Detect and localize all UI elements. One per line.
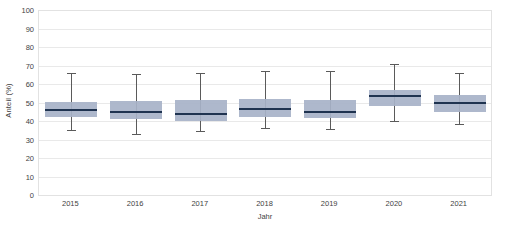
whisker-cap-lower <box>455 124 464 125</box>
y-tick-label: 70 <box>26 61 34 70</box>
whisker-cap-upper <box>67 73 76 74</box>
median-line <box>45 109 97 111</box>
y-tick-label: 90 <box>26 24 34 33</box>
median-line <box>110 111 162 113</box>
median-line <box>304 111 356 113</box>
median-line <box>239 108 291 110</box>
box-plot-item[interactable] <box>298 10 363 195</box>
box-plot-chart: Anteil (%) 0102030405060708090100 201520… <box>0 0 508 236</box>
x-axis-title: Jahr <box>38 212 492 221</box>
whisker-cap-upper <box>261 71 270 72</box>
y-tick-label: 50 <box>26 98 34 107</box>
box-plot-item[interactable] <box>39 10 104 195</box>
whisker-cap-upper <box>390 64 399 65</box>
y-tick-label: 100 <box>21 6 34 15</box>
whisker-cap-lower <box>67 130 76 131</box>
whisker-cap-upper <box>326 71 335 72</box>
box-plot-item[interactable] <box>233 10 298 195</box>
box-rect <box>369 90 421 107</box>
median-line <box>434 102 486 104</box>
x-tick-label: 2021 <box>450 199 467 208</box>
x-tick-label: 2017 <box>191 199 208 208</box>
whisker-cap-lower <box>326 129 335 130</box>
gridline <box>39 195 492 196</box>
box-plot-item[interactable] <box>427 10 492 195</box>
box-rect <box>304 100 356 119</box>
y-axis-title-text: Anteil (%) <box>4 83 13 118</box>
whisker-cap-lower <box>132 134 141 135</box>
whisker-cap-lower <box>196 131 205 132</box>
whisker-cap-lower <box>390 121 399 122</box>
x-tick-label: 2015 <box>62 199 79 208</box>
y-tick-label: 20 <box>26 154 34 163</box>
median-line <box>369 95 421 97</box>
y-tick-label: 10 <box>26 172 34 181</box>
y-tick-label: 0 <box>30 191 34 200</box>
whisker-cap-lower <box>261 128 270 129</box>
y-axis-tick-labels: 0102030405060708090100 <box>14 5 36 197</box>
y-tick-label: 60 <box>26 80 34 89</box>
x-axis-tick-labels: 2015201620172018201920202021 <box>38 199 492 213</box>
whisker-cap-upper <box>132 74 141 75</box>
x-tick-label: 2018 <box>256 199 273 208</box>
y-tick-label: 30 <box>26 135 34 144</box>
y-tick-label: 80 <box>26 43 34 52</box>
whisker-cap-upper <box>455 73 464 74</box>
x-tick-label: 2019 <box>321 199 338 208</box>
median-line <box>175 113 227 115</box>
y-tick-label: 40 <box>26 117 34 126</box>
box-plot-item[interactable] <box>363 10 428 195</box>
box-plot-item[interactable] <box>168 10 233 195</box>
x-tick-label: 2020 <box>386 199 403 208</box>
plot-area <box>38 10 492 196</box>
x-tick-label: 2016 <box>127 199 144 208</box>
box-plot-item[interactable] <box>104 10 169 195</box>
whisker-cap-upper <box>196 73 205 74</box>
box-rect <box>175 100 227 121</box>
